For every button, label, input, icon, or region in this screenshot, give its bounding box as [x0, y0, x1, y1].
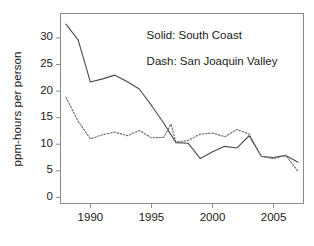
x-tick-marks	[90, 204, 273, 209]
plot-frame	[61, 14, 304, 204]
y-tick-marks	[56, 38, 61, 197]
series-line-san-joaquin-valley	[66, 97, 298, 171]
ozone-trend-chart: ppm-hours per person 0 5 10 15 20 25 30 …	[0, 0, 314, 246]
plot-area	[0, 0, 314, 246]
